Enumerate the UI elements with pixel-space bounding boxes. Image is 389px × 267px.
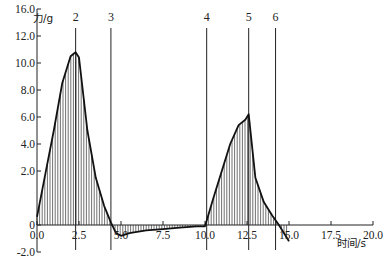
force-time-chart: 23456 0.02.55.07.510.012.515.017.520.016… <box>0 0 389 267</box>
x-tick-label: 5.0 <box>114 229 129 241</box>
y-tick-label: 0 <box>29 219 35 231</box>
x-tick-label: 15.0 <box>279 229 299 241</box>
y-tick-label: 2.0 <box>21 165 36 177</box>
marker-label-6: 6 <box>273 10 279 24</box>
y-axis-title: 力/g <box>33 12 53 24</box>
y-tick-label: 8.0 <box>21 84 36 96</box>
x-axis-title: 时间/s <box>337 237 366 249</box>
y-tick-label: -2.0 <box>17 246 35 258</box>
x-tick-label: 12.5 <box>237 229 257 241</box>
marker-label-4: 4 <box>204 10 210 24</box>
x-tick-label: 2.5 <box>72 229 87 241</box>
marker-label-2: 2 <box>73 10 79 24</box>
y-tick-label: 6.0 <box>21 111 36 123</box>
y-tick-label: 12.0 <box>15 30 35 42</box>
marker-label-3: 3 <box>108 10 114 24</box>
x-tick-label: 7.5 <box>156 229 171 241</box>
force-curve <box>37 52 289 241</box>
y-tick-label: 10.0 <box>15 57 35 69</box>
marker-label-5: 5 <box>246 10 252 24</box>
x-tick-label: 10.0 <box>195 229 215 241</box>
tick-labels: 0.02.55.07.510.012.515.017.520.016.012.0… <box>15 3 383 258</box>
y-tick-label: 4.0 <box>21 138 36 150</box>
